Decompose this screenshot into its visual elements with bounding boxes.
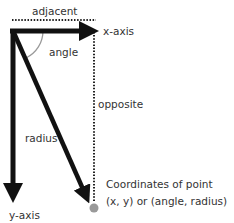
adjacent-label: adjacent [32,5,77,17]
point-description-line2: (x, y) or (angle, radius) [106,195,227,207]
angle-label: angle [49,46,78,58]
x-axis-label: x-axis [103,25,134,37]
angle-arc [26,31,43,58]
polar-coordinates-diagram: adjacent opposite angle x-axis y-axis ra… [0,0,234,223]
radius-label: radius [25,132,57,144]
y-axis-label: y-axis [9,209,40,221]
opposite-label: opposite [98,98,143,110]
point-description-line1: Coordinates of point [106,178,213,190]
point-marker [90,204,99,213]
